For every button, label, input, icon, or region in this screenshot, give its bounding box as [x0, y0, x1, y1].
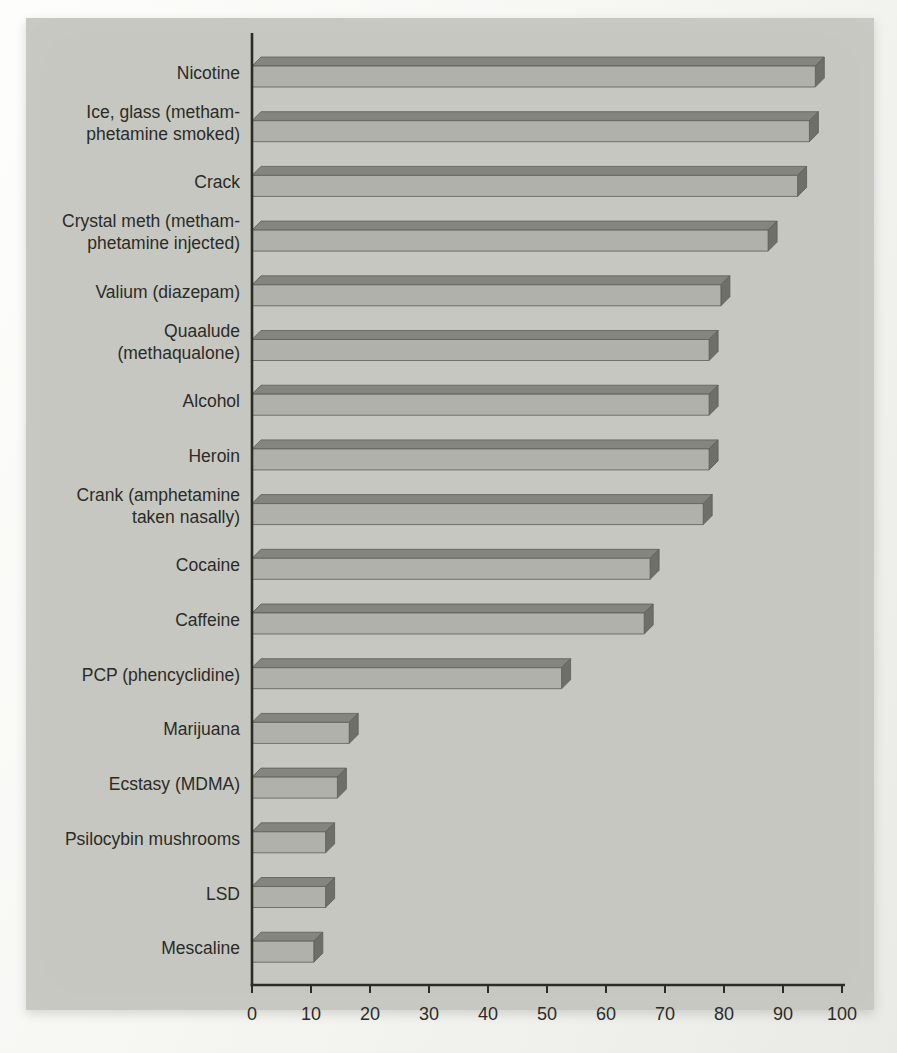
bar-front-face — [252, 121, 809, 142]
category-label-alcohol: Alcohol — [183, 391, 240, 411]
bar-top-face — [252, 878, 335, 887]
x-tick-label: 10 — [301, 1004, 321, 1024]
bar-front-face — [252, 66, 815, 87]
category-label-heroin: Heroin — [188, 446, 240, 466]
bar-front-face — [252, 668, 562, 689]
category-label-caffeine: Caffeine — [175, 610, 240, 630]
bar-front-face — [252, 285, 721, 306]
bar-front-face — [252, 230, 768, 251]
bar-top-face — [252, 440, 718, 449]
bar-front-face — [252, 722, 349, 743]
x-tick-label: 20 — [360, 1004, 380, 1024]
bar-front-face — [252, 449, 709, 470]
bar-row-crystal-meth-methamphetamine-injected — [252, 221, 777, 251]
bar-row-psilocybin-mushrooms — [252, 823, 335, 853]
bar-front-face — [252, 941, 314, 962]
bar-front-face — [252, 887, 326, 908]
bar-top-face — [252, 385, 718, 394]
x-tick-label: 30 — [419, 1004, 439, 1024]
category-label-marijuana: Marijuana — [163, 719, 240, 739]
category-label-mescaline: Mescaline — [161, 938, 240, 958]
bar-row-ice-glass-methamphetamine-smoked — [252, 112, 818, 142]
bar-row-valium-diazepam — [252, 276, 730, 306]
bar-top-face — [252, 57, 824, 66]
bar-front-face — [252, 504, 703, 525]
bar-top-face — [252, 276, 730, 285]
category-label-pcp-phencyclidine: PCP (phencyclidine) — [82, 665, 240, 685]
bar-front-face — [252, 340, 709, 361]
x-tick-label: 60 — [596, 1004, 616, 1024]
bar-row-ecstasy-mdma — [252, 768, 346, 798]
bar-top-face — [252, 932, 323, 941]
bar-row-crank-amphetamine-taken-nasally — [252, 495, 712, 525]
category-label-crystal-meth-methamphetamine-injected: Crystal meth (metham-phetamine injected) — [62, 211, 240, 253]
bar-row-lsd — [252, 878, 335, 908]
bar-front-face — [252, 175, 798, 196]
category-label-ecstasy-mdma: Ecstasy (MDMA) — [109, 774, 240, 794]
category-label-cocaine: Cocaine — [176, 555, 240, 575]
bar-top-face — [252, 768, 346, 777]
category-label-nicotine: Nicotine — [177, 63, 240, 83]
bar-front-face — [252, 777, 337, 798]
category-label-crank-amphetamine-taken-nasally: Crank (amphetaminetaken nasally) — [77, 485, 240, 527]
bar-front-face — [252, 394, 709, 415]
category-label-lsd: LSD — [206, 884, 240, 904]
category-label-psilocybin-mushrooms: Psilocybin mushrooms — [65, 829, 240, 849]
x-tick-label: 100 — [827, 1004, 857, 1024]
bar-row-heroin — [252, 440, 718, 470]
category-label-quaalude-methaqualone: Quaalude(methaqualone) — [117, 321, 240, 363]
bar-top-face — [252, 112, 818, 121]
x-tick-label: 50 — [537, 1004, 557, 1024]
bar-row-nicotine — [252, 57, 824, 87]
x-tick-label: 80 — [714, 1004, 734, 1024]
category-label-crack: Crack — [194, 172, 240, 192]
addictiveness-chart: NicotineIce, glass (metham-phetamine smo… — [0, 0, 897, 1053]
bar-front-face — [252, 832, 326, 853]
bar-top-face — [252, 713, 358, 722]
bar-top-face — [252, 549, 659, 558]
x-tick-label: 0 — [247, 1004, 257, 1024]
bar-front-face — [252, 558, 650, 579]
category-label-ice-glass-methamphetamine-smoked: Ice, glass (metham-phetamine smoked) — [86, 102, 240, 144]
bar-top-face — [252, 166, 807, 175]
bar-row-alcohol — [252, 385, 718, 415]
bar-top-face — [252, 221, 777, 230]
bar-row-mescaline — [252, 932, 323, 962]
bar-top-face — [252, 331, 718, 340]
bar-front-face — [252, 613, 644, 634]
bar-row-quaalude-methaqualone — [252, 331, 718, 361]
bar-row-pcp-phencyclidine — [252, 659, 571, 689]
bar-row-crack — [252, 166, 807, 196]
category-label-valium-diazepam: Valium (diazepam) — [95, 282, 240, 302]
x-tick-label: 90 — [773, 1004, 793, 1024]
x-tick-label: 70 — [655, 1004, 675, 1024]
bar-row-cocaine — [252, 549, 659, 579]
bar-row-caffeine — [252, 604, 653, 634]
bar-row-marijuana — [252, 713, 358, 743]
x-tick-label: 40 — [478, 1004, 498, 1024]
bar-top-face — [252, 659, 571, 668]
bar-top-face — [252, 604, 653, 613]
scanned-page: NicotineIce, glass (metham-phetamine smo… — [0, 0, 897, 1053]
bar-top-face — [252, 495, 712, 504]
bar-top-face — [252, 823, 335, 832]
